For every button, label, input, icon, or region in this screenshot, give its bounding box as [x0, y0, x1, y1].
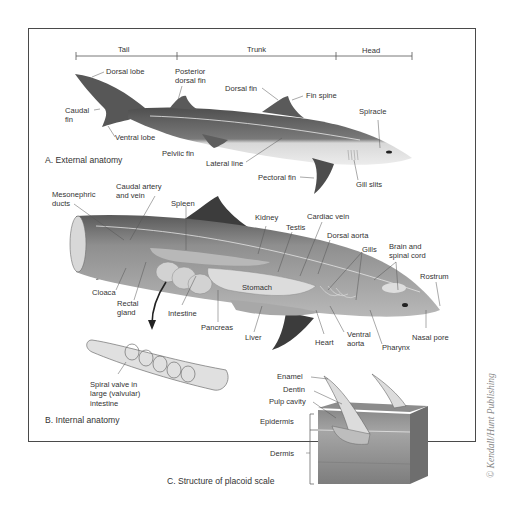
shark-anatomy-artwork [0, 0, 511, 526]
region-label-trunk: Trunk [247, 45, 266, 54]
region-label-head: Head [362, 46, 380, 55]
label-rostrum: Rostrum [420, 272, 449, 281]
label-pharynx: Pharynx [382, 343, 410, 352]
label-pectoral-fin: Pectoral fin [258, 173, 296, 182]
region-label-tail: Tail [118, 45, 129, 54]
label-pulp-cavity: Pulp cavity [269, 397, 306, 406]
section-title-scale: C. Structure of placoid scale [167, 476, 274, 486]
label-enamel: Enamel [277, 372, 303, 381]
label-nasal-pore: Nasal pore [412, 333, 449, 342]
label-spleen: Spleen [171, 199, 195, 208]
label-cardiac-vein: Cardiac vein [307, 212, 349, 221]
label-fin-spine: Fin spine [306, 91, 337, 100]
label-caudal-fin: Caudal fin [65, 106, 89, 125]
section-title-external: A. External anatomy [45, 155, 122, 165]
label-dorsal-fin: Dorsal fin [225, 84, 257, 93]
label-liver: Liver [245, 333, 261, 342]
label-dorsal-aorta: Dorsal aorta [327, 231, 368, 240]
label-dermis: Dermis [270, 449, 294, 458]
label-ventral-aorta: Ventral aorta [347, 330, 371, 349]
label-brain-spinal-cord: Brain and spinal cord [389, 242, 426, 261]
label-testis: Testis [286, 223, 305, 232]
copyright-credit: © Kendall/Hunt Publishing [486, 373, 496, 478]
label-caudal-artery-vein: Caudal artery and vein [116, 182, 162, 201]
label-intestine: Intestine [168, 309, 197, 318]
section-title-internal: B. Internal anatomy [45, 415, 120, 425]
label-ventral-lobe: Ventral lobe [115, 133, 155, 142]
placoid-scale-drawing [310, 374, 428, 484]
label-stomach: Stomach [242, 283, 272, 292]
label-pelvic-fin: Pelviic fin [162, 149, 194, 158]
label-spiracle: Spiracle [359, 107, 386, 116]
label-rectal-gland: Rectal gland [117, 299, 139, 318]
label-dorsal-lobe: Dorsal lobe [106, 67, 144, 76]
label-lateral-line: Lateral line [206, 159, 243, 168]
label-dentin: Dentin [283, 385, 305, 394]
label-spiral-valve: Spiral valve in large (valvular) intesti… [90, 380, 140, 408]
label-posterior-dorsal-fin: Posterior dorsal fin [175, 67, 206, 86]
label-kidney: Kidney [255, 213, 278, 222]
label-gills: Gills [362, 245, 377, 254]
label-pancreas: Pancreas [201, 323, 233, 332]
label-heart: Heart [315, 338, 334, 347]
label-epidermis: Epidermis [260, 417, 294, 426]
label-gill-slits: Gill slits [356, 180, 382, 189]
label-cloaca: Cloaca [92, 288, 116, 297]
label-mesonephric-ducts: Mesonephric ducts [52, 190, 95, 209]
